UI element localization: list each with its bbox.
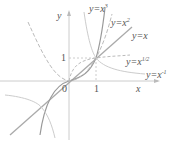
x-axis-label: x — [136, 84, 140, 94]
tick-y-1: 1 — [61, 53, 66, 63]
curve-y-eq-x2 — [28, 14, 112, 81]
label-inv-x: y=x-1 — [146, 69, 167, 80]
origin-label: 0 — [62, 84, 67, 94]
label-x3: y=x3 — [89, 3, 108, 14]
y-axis-arrow-icon — [67, 10, 71, 16]
power-functions-diagram: y x 0 1 1 y=x3 y=x2 y=x y=x1/2 y=x-1 — [0, 0, 174, 145]
label-sqrt-x: y=x1/2 — [126, 56, 149, 67]
tick-x-1: 1 — [94, 84, 99, 94]
label-x2: y=x2 — [111, 17, 130, 28]
label-x: y=x — [132, 31, 148, 41]
y-axis-label: y — [57, 11, 61, 21]
